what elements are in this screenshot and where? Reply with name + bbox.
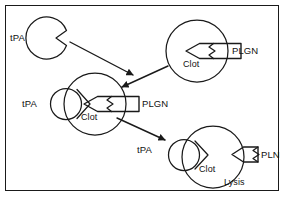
top-clot-circle bbox=[166, 20, 228, 82]
label-clot-middle: Clot bbox=[81, 113, 97, 122]
label-tpa-lower: tPA bbox=[137, 145, 152, 155]
label-clot-bottom: Clot bbox=[199, 165, 215, 174]
plgn-clot-to-complex-arrow bbox=[122, 66, 168, 87]
label-plgn-top: PLGN bbox=[232, 46, 258, 56]
label-lysis: Lysis bbox=[224, 178, 245, 187]
tpa-to-clot-arrow bbox=[70, 42, 133, 75]
complex-to-lysis-arrow bbox=[117, 118, 165, 140]
label-tpa-free: tPA bbox=[10, 33, 25, 43]
free-tpa-shape bbox=[26, 17, 67, 59]
label-plgn-middle: PLGN bbox=[142, 99, 168, 109]
label-tpa-middle: tPA bbox=[22, 99, 37, 109]
fibrinolysis-diagram: tPA PLGN Clot tPA PLGN Clot tPA PLN Clot… bbox=[0, 0, 286, 198]
middle-clot-circle bbox=[64, 73, 126, 135]
label-pln-bottom: PLN bbox=[261, 150, 280, 160]
bottom-tpa-small-circle bbox=[169, 140, 200, 171]
plgn-token-middle bbox=[84, 97, 139, 112]
pln-token-bottom bbox=[232, 147, 259, 162]
label-clot-top: Clot bbox=[183, 60, 199, 69]
